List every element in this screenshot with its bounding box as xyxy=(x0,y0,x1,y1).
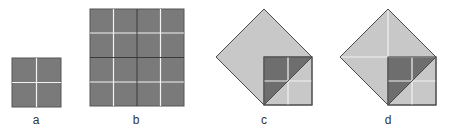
figure-label-a: a xyxy=(33,113,40,127)
figure-label-d: d xyxy=(385,113,392,127)
figure-label-b: b xyxy=(133,113,140,127)
figure-label-c: c xyxy=(261,113,267,127)
figure-b-grid-square xyxy=(90,9,184,106)
figure-d-diamond-square-cross xyxy=(340,9,436,105)
figure-c-diamond-square xyxy=(216,9,312,105)
figure-a-square xyxy=(12,58,61,107)
